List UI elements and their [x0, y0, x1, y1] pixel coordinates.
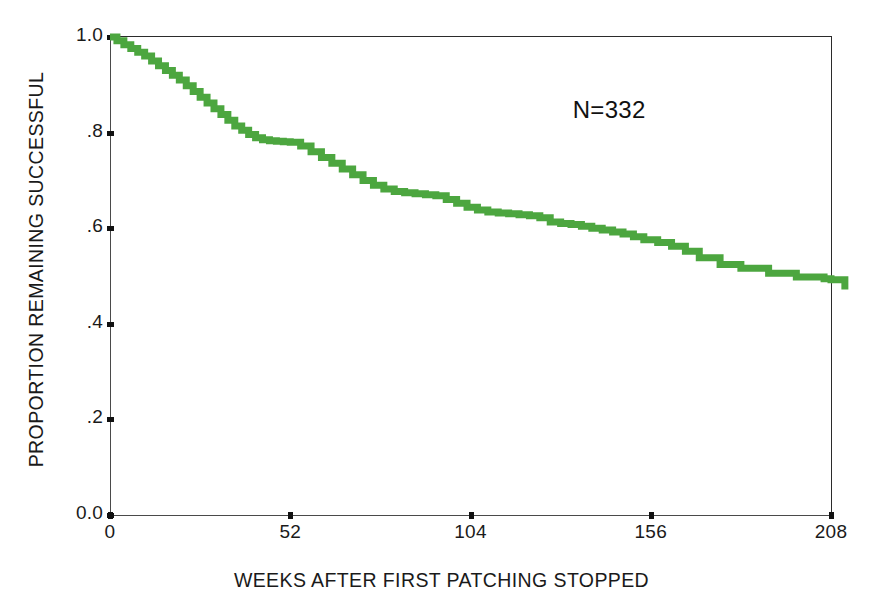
kaplan-meier-curve — [110, 37, 845, 289]
survival-curve-svg — [0, 0, 883, 606]
survival-chart-figure: 1.0.8.6.4.20.0 052104156208 PROPORTION R… — [0, 0, 883, 606]
